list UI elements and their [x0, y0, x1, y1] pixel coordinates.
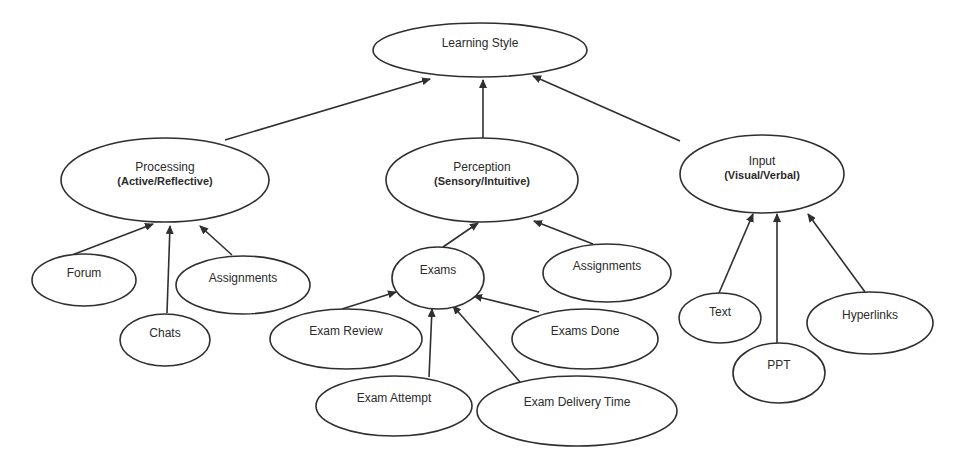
node-label-exams: Exams	[420, 263, 457, 277]
node-label-learning-style: Learning Style	[442, 36, 519, 50]
edge-exam-delivery-time-to-exams	[453, 306, 520, 382]
node-exam-delivery-time	[477, 376, 677, 446]
node-label-exams-done: Exams Done	[551, 324, 620, 338]
edge-hyperlinks-to-input	[808, 214, 865, 292]
edge-exams-done-to-exams	[474, 296, 539, 312]
node-title: Chats	[149, 326, 180, 340]
node-hyperlinks	[807, 292, 933, 354]
node-ppt	[733, 343, 825, 403]
node-exam-review	[270, 309, 422, 369]
node-title: PPT	[767, 358, 790, 372]
diagram-canvas	[0, 0, 961, 472]
node-exam-attempt	[316, 376, 472, 436]
edge-chats-to-processing	[167, 226, 170, 313]
node-assignments-processing	[176, 256, 310, 314]
node-subtitle: (Visual/Verbal)	[724, 168, 800, 182]
node-chats	[120, 314, 210, 366]
node-title: Input	[749, 154, 776, 168]
edge-assignments-perception-to-perception	[534, 221, 593, 244]
node-title: Exam Review	[309, 324, 382, 338]
node-label-assignments-processing: Assignments	[209, 271, 278, 285]
node-title: Learning Style	[442, 36, 519, 50]
node-forum	[32, 254, 136, 306]
node-label-text: Text	[709, 305, 731, 319]
learning-style-diagram: Learning StyleProcessing(Active/Reflecti…	[0, 0, 961, 472]
node-learning-style	[373, 23, 587, 77]
node-title: Processing	[135, 160, 194, 174]
node-exams	[392, 247, 484, 309]
edge-assignments-processing-to-processing	[200, 226, 232, 255]
edge-exams-to-perception	[443, 223, 478, 247]
node-title: Assignments	[209, 271, 278, 285]
node-title: Forum	[67, 266, 102, 280]
node-label-processing: Processing(Active/Reflective)	[117, 160, 212, 188]
node-title: Assignments	[573, 259, 642, 273]
edge-text-to-input	[719, 214, 753, 293]
node-label-input: Input(Visual/Verbal)	[724, 154, 800, 182]
node-label-chats: Chats	[149, 326, 180, 340]
node-label-forum: Forum	[67, 266, 102, 280]
node-label-hyperlinks: Hyperlinks	[842, 308, 898, 322]
node-label-exam-delivery-time: Exam Delivery Time	[524, 395, 631, 409]
edge-exam-attempt-to-exams	[429, 309, 432, 377]
node-exams-done	[512, 309, 658, 369]
edge-exam-review-to-exams	[342, 292, 396, 309]
node-assignments-perception	[543, 244, 671, 302]
edge-input-to-learning-style	[533, 76, 680, 141]
node-title: Hyperlinks	[842, 308, 898, 322]
node-title: Text	[709, 305, 731, 319]
node-subtitle: (Active/Reflective)	[117, 174, 212, 188]
node-title: Exam Attempt	[357, 391, 432, 405]
node-label-perception: Perception(Sensory/Intuitive)	[434, 160, 530, 188]
node-label-exam-review: Exam Review	[309, 324, 382, 338]
node-label-ppt: PPT	[767, 358, 790, 372]
node-subtitle: (Sensory/Intuitive)	[434, 174, 530, 188]
node-title: Exams Done	[551, 324, 620, 338]
node-title: Exam Delivery Time	[524, 395, 631, 409]
edge-forum-to-processing	[72, 224, 153, 255]
node-label-assignments-perception: Assignments	[573, 259, 642, 273]
node-title: Perception	[453, 160, 510, 174]
node-title: Exams	[420, 263, 457, 277]
node-label-exam-attempt: Exam Attempt	[357, 391, 432, 405]
edge-processing-to-learning-style	[225, 79, 430, 140]
